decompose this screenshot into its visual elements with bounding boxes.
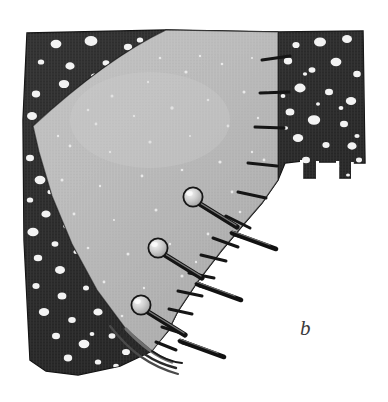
fabric-seam-illustration	[0, 0, 388, 402]
pin-head-2	[148, 238, 167, 257]
figure-container: b	[0, 0, 388, 402]
pin-head-1	[183, 187, 202, 206]
pin-head-3	[131, 295, 150, 314]
figure-label-b: b	[300, 318, 311, 339]
